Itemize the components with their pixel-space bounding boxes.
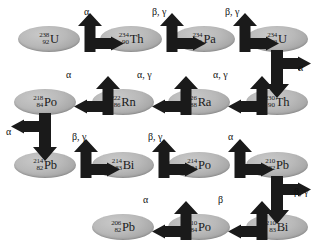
arrow-u238-to-th234 — [78, 12, 124, 52]
emission-label-d8: α — [6, 126, 11, 137]
arrow-th230-to-ra226 — [228, 75, 274, 115]
emission-label-d10: β, γ — [148, 131, 163, 142]
arrow-ra226-to-rn222 — [152, 75, 198, 115]
element-symbol: Pb — [276, 159, 289, 172]
element-symbol: U — [50, 33, 59, 46]
emission-label-d13: β — [218, 194, 223, 205]
emission-label-d7: α — [66, 69, 71, 80]
atomic-number: 92 — [42, 39, 49, 46]
arrow-po214-to-pb210 — [228, 138, 274, 178]
arrow-bi210-to-po210 — [228, 200, 274, 240]
emission-label-d6: α, γ — [137, 69, 152, 80]
element-symbol: Po — [198, 221, 211, 234]
emission-label-d4: α — [298, 62, 303, 73]
arrow-th234-to-pa234 — [160, 12, 206, 52]
atomic-number: 82 — [36, 165, 43, 172]
emission-label-d1: α — [84, 6, 89, 17]
arrow-pb214-to-bi214 — [74, 138, 120, 178]
emission-label-d14: α — [143, 194, 148, 205]
emission-label-d5: α, γ — [213, 69, 228, 80]
atomic-number: 84 — [36, 102, 43, 109]
arrow-po218-to-pb214 — [11, 113, 57, 161]
emission-label-d3: β, γ — [225, 6, 240, 17]
arrow-po210-to-pb206 — [152, 200, 198, 240]
element-symbol: Th — [130, 33, 144, 46]
element-symbol: Bi — [123, 159, 134, 172]
element-symbol: Rn — [121, 96, 135, 109]
arrow-rn222-to-po218 — [74, 75, 120, 115]
atomic-number: 82 — [114, 227, 121, 234]
element-symbol: Pb — [122, 221, 135, 234]
decay-chain-diagram: 23892U23490Th23491Pa23492U23090Th22688Ra… — [0, 0, 315, 251]
emission-label-d2: β, γ — [152, 6, 167, 17]
emission-label-d12: β, γ — [294, 186, 309, 197]
element-symbol: U — [278, 33, 287, 46]
element-symbol: Po — [198, 159, 211, 172]
emission-label-d11: α — [228, 131, 233, 142]
arrow-pa234-to-u234 — [233, 12, 279, 52]
nuclide-pb206: 20682Pb — [92, 214, 154, 240]
arrow-bi214-to-po214 — [152, 138, 198, 178]
element-symbol: Ra — [198, 96, 212, 109]
nuclide-po218: 21884Po — [14, 89, 76, 115]
element-symbol: Po — [44, 96, 57, 109]
emission-label-d9: β, γ — [72, 131, 87, 142]
nuclide-u238: 23892U — [18, 26, 80, 52]
